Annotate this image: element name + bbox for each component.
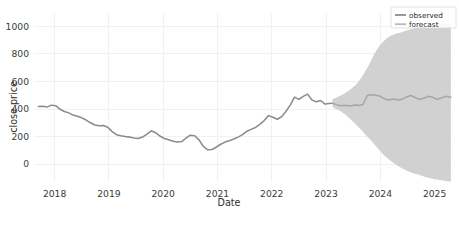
x-axis-title: Date [218,197,241,208]
x-tick-2025: 2025 [423,188,447,199]
legend-label-forecast: forecast [409,20,439,29]
x-tick-2020: 2020 [152,188,176,199]
chart-figure: 20182019202020212022202320242025 0200400… [0,0,459,234]
y-tick-1000: 1000 [6,21,30,32]
y-axis-title: close price [8,81,19,133]
legend-label-observed: observed [409,11,443,20]
chart-legend: observedforecast [391,7,456,29]
y-tick-0: 0 [23,158,29,169]
x-tick-2019: 2019 [97,188,121,199]
x-tick-2024: 2024 [369,188,393,199]
x-tick-2022: 2022 [260,188,283,199]
y-tick-800: 800 [11,48,29,59]
x-tick-2023: 2023 [314,188,338,199]
x-tick-2018: 2018 [43,188,67,199]
chart-canvas: 20182019202020212022202320242025 0200400… [0,0,459,234]
